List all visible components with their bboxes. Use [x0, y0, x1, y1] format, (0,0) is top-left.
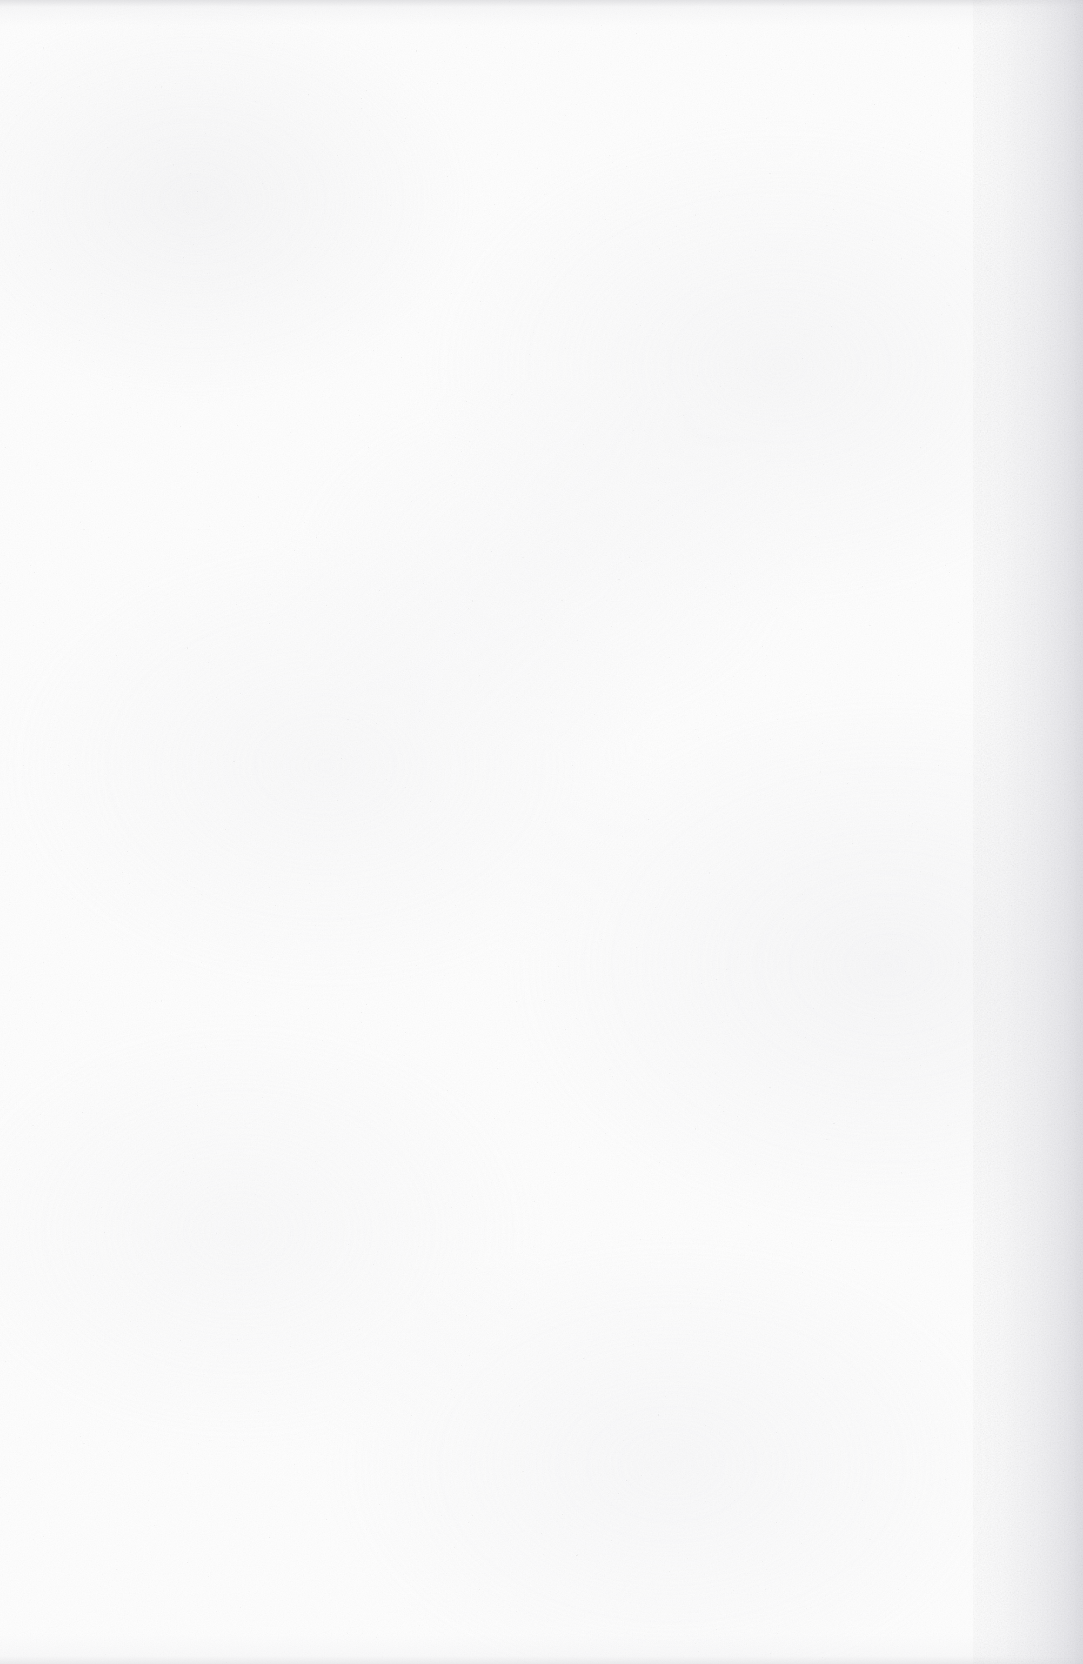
paper-background: [0, 0, 1083, 1664]
scanned-page: [0, 0, 1083, 1664]
